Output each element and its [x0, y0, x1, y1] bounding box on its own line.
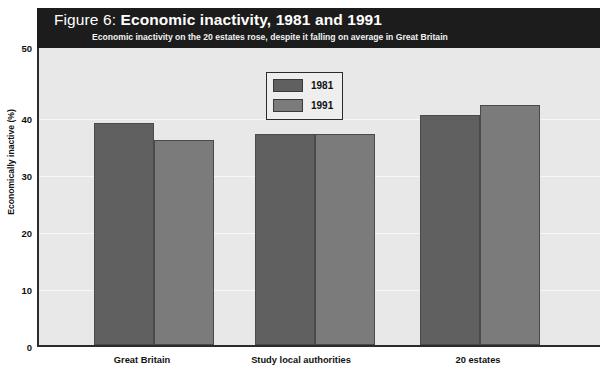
legend-swatch-1991: [273, 99, 303, 112]
legend-swatch-1981: [273, 79, 303, 92]
y-tick-50: 50: [0, 44, 32, 54]
y-tick-20: 20: [0, 229, 32, 239]
chart-legend: 1981 1991: [266, 72, 343, 120]
y-axis-title: Economically inactive (%): [6, 87, 16, 237]
y-tick-0: 0: [0, 343, 32, 353]
bar-20-estates-1981[interactable]: [420, 115, 480, 345]
y-tick-30: 30: [0, 172, 32, 182]
bar-great-britain-1991[interactable]: [154, 140, 214, 345]
x-tick-study-local-authorities: Study local authorities: [213, 355, 389, 365]
y-tick-40: 40: [0, 115, 32, 125]
legend-label-1981: 1981: [311, 80, 333, 92]
bar-study-local-authorities-1991[interactable]: [315, 134, 375, 345]
x-tick-20-estates: 20 estates: [398, 355, 558, 365]
plot-area: 1981 1991: [37, 48, 600, 347]
y-tick-10: 10: [0, 286, 32, 296]
plot-inner: 1981 1991: [39, 48, 600, 345]
figure-container: Figure 6: Economic inactivity, 1981 and …: [0, 0, 615, 376]
bar-great-britain-1981[interactable]: [94, 123, 154, 345]
bar-20-estates-1991[interactable]: [480, 105, 540, 346]
legend-label-1991: 1991: [311, 100, 333, 112]
bar-study-local-authorities-1981[interactable]: [255, 134, 315, 345]
x-tick-great-britain: Great Britain: [62, 355, 222, 365]
